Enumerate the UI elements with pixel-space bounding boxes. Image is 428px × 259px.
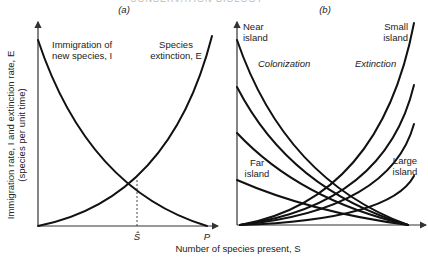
svg-text:island: island [383, 32, 408, 43]
x-axis-label: Number of species present, S [175, 243, 300, 254]
svg-text:new species, I: new species, I [52, 50, 112, 61]
svg-text:extinction, E: extinction, E [150, 50, 202, 61]
small-island-label: Small [384, 21, 408, 32]
colonization-label: Colonization [258, 58, 310, 69]
extinction-curve-small [240, 23, 414, 225]
extinction-curve [38, 36, 212, 226]
svg-text:island: island [393, 166, 418, 177]
svg-text:Immigration rate, I and extinc: Immigration rate, I and extinction rate,… [5, 51, 16, 219]
extinction-group-label: Extinction [355, 58, 396, 69]
equilibrium-tick: Ŝ [134, 231, 141, 242]
panel-b: (b) Near island Colonization Extinction … [237, 4, 426, 225]
far-island-label: Far [250, 157, 264, 168]
immigration-label: Immigration of [52, 39, 113, 50]
pool-tick: P [204, 231, 211, 242]
svg-text:island: island [245, 168, 270, 179]
svg-text:island: island [243, 32, 268, 43]
panel-a-title: (a) [118, 4, 130, 15]
large-island-label: Large [393, 155, 417, 166]
extinction-label: Species [159, 39, 193, 50]
panel-a: (a) Immigration of new species, I Specie… [38, 4, 218, 242]
panel-b-title: (b) [319, 4, 331, 15]
figure-canvas: Immigration rate, I and extinction rate,… [0, 0, 428, 259]
svg-text:(species per unit time): (species per unit time) [16, 88, 27, 181]
colonization-curve-3 [237, 133, 408, 225]
immigration-curve [38, 40, 207, 226]
near-island-label: Near [243, 21, 264, 32]
y-axis-label: Immigration rate, I and extinction rate,… [5, 51, 27, 219]
